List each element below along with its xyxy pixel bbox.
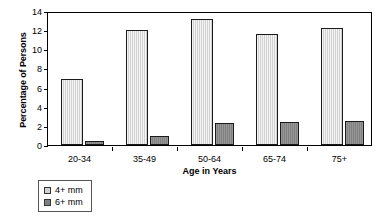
bar (85, 141, 104, 145)
x-axis-tick-mark (177, 147, 178, 151)
y-axis-tick-label: 8 (37, 63, 42, 76)
bar (256, 34, 278, 145)
bar (191, 19, 213, 145)
y-axis-tick-label: 10 (32, 44, 42, 57)
bar (345, 121, 364, 145)
x-axis-tick-label: 50-64 (175, 153, 245, 165)
bar (126, 30, 148, 145)
y-axis-tick-label: 14 (32, 6, 42, 19)
legend-item: 6+ mm (44, 196, 83, 208)
x-axis-title: Age in Years (47, 165, 372, 177)
chart-legend: 4+ mm 6+ mm (38, 180, 92, 212)
bar (215, 123, 234, 145)
x-axis-tick-mark (242, 147, 243, 151)
x-axis-tick-label: 75+ (305, 153, 375, 165)
x-axis-tick-label: 65-74 (240, 153, 310, 165)
plot-area: 02468101214 (47, 12, 372, 146)
legend-item-label: 6+ mm (55, 197, 83, 208)
y-axis-title: Percentage of Persons (16, 10, 30, 150)
x-axis-tick-label: 35-49 (110, 153, 180, 165)
y-axis-tick-label: 12 (32, 25, 42, 38)
legend-item: 4+ mm (44, 184, 83, 196)
bar (321, 28, 343, 145)
bar-group (308, 13, 373, 145)
bar-group (178, 13, 243, 145)
x-axis-tick-label: 20-34 (45, 153, 115, 165)
bar-group (243, 13, 308, 145)
legend-swatch-icon (44, 199, 51, 206)
y-axis-tick-label: 0 (37, 140, 42, 153)
y-axis-tick-label: 4 (37, 102, 42, 115)
bar-group (113, 13, 178, 145)
bar (61, 79, 83, 145)
x-axis-tick-mark (307, 147, 308, 151)
bar-chart-figure: Percentage of Persons 02468101214 20-343… (0, 0, 384, 216)
y-axis-tick-label: 2 (37, 121, 42, 134)
bar (150, 136, 169, 145)
bars-layer (48, 13, 371, 145)
bar-group (48, 13, 113, 145)
legend-swatch-icon (44, 187, 51, 194)
x-axis-tick-mark (112, 147, 113, 151)
legend-item-label: 4+ mm (55, 185, 83, 196)
y-axis-tick-label: 6 (37, 83, 42, 96)
bar (280, 122, 299, 145)
